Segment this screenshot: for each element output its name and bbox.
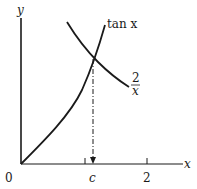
two-over-x-numerator: 2 [132, 71, 140, 85]
arrow-head-icon [90, 157, 96, 164]
tan-x-label-text: tan x [107, 17, 138, 31]
tan-x-curve [21, 25, 105, 164]
two-over-x-denominator: x [132, 84, 139, 98]
x-axis-label: x [184, 157, 191, 171]
c-tick-label: c [89, 171, 96, 185]
y-axis-label: y [16, 3, 24, 17]
origin-label: 0 [5, 171, 13, 185]
tan-x-label: tan x [107, 17, 138, 31]
two-over-x-curve [67, 22, 129, 87]
figure-canvas: y x 0 c 2 tan x 2 x [0, 0, 197, 189]
two-tick-label: 2 [143, 171, 151, 185]
